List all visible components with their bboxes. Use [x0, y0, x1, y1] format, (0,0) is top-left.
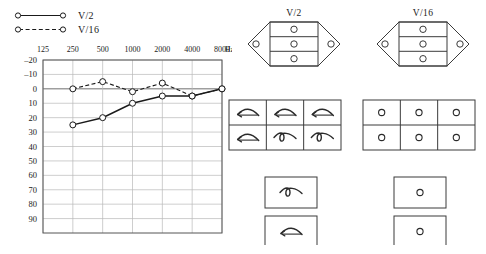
boxes-left-svg: [263, 175, 319, 245]
y-tick-label: 40: [29, 142, 38, 152]
data-point-marker: [159, 80, 165, 86]
left-box: [265, 177, 317, 208]
y-tick-label: –10: [23, 69, 37, 79]
hexagon-diagram-v16: V/16: [375, 8, 471, 66]
y-tick-label: –20: [23, 55, 37, 65]
circle-icon: [416, 134, 422, 140]
circle-grid-right: [360, 98, 478, 152]
curved-arrow-left-icon: [281, 228, 302, 236]
chart-legend: V/2 V/16: [14, 9, 99, 37]
legend-dashed-line-icon: [14, 24, 72, 35]
data-point-marker: [100, 115, 106, 121]
audiogram-chart: 1252505001000200040008000Hz–20–100102030…: [0, 38, 232, 248]
circle-icon: [417, 228, 423, 234]
y-tick-label: 20: [29, 113, 38, 123]
screenshot-root: V/2 V/16 1252505001000200040008000Hz–20–…: [0, 0, 486, 254]
boxes-right: [392, 175, 448, 245]
audiogram-svg: 1252505001000200040008000Hz–20–100102030…: [0, 38, 232, 250]
loop-squiggle-icon: [311, 133, 333, 141]
legend-item-v16: V/16: [14, 23, 99, 35]
y-tick-label: 90: [29, 214, 38, 224]
data-point-marker: [159, 93, 165, 99]
hexagon-title-v16: V/16: [375, 8, 471, 18]
loop-squiggle-icon: [280, 188, 302, 196]
circle-icon: [453, 109, 459, 115]
x-tick-label: 2000: [154, 45, 170, 54]
hexagon-diagram-v2: V/2: [246, 8, 342, 66]
legend-solid-line-icon: [14, 10, 72, 21]
x-tick-label: 125: [37, 45, 49, 54]
x-tick-label: 500: [97, 45, 109, 54]
circle-icon: [416, 109, 422, 115]
curved-arrow-left-icon: [238, 134, 259, 142]
y-tick-label: 0: [33, 84, 37, 94]
data-point-marker: [130, 100, 136, 106]
y-tick-label: 80: [29, 199, 38, 209]
curved-arrow-left-icon: [238, 109, 259, 117]
hexagon-shape-v16: [375, 20, 471, 68]
data-point-marker: [70, 86, 76, 92]
data-point-marker: [100, 79, 106, 85]
circle-icon: [453, 134, 459, 140]
legend-item-v2: V/2: [14, 9, 99, 21]
loop-squiggle-icon: [274, 133, 296, 141]
hexagon-title-v2: V/2: [246, 8, 342, 18]
x-axis-unit-label: Hz: [225, 45, 232, 54]
circle-icon: [417, 189, 423, 195]
hexagon-shape-v2: [246, 20, 342, 68]
y-tick-label: 30: [29, 127, 38, 137]
y-tick-label: 60: [29, 170, 38, 180]
left-box: [265, 216, 317, 245]
circle-icon: [379, 109, 385, 115]
arrow-grid-left-svg: [226, 98, 344, 152]
data-point-marker: [130, 89, 136, 95]
circle-grid-right-svg: [360, 98, 478, 152]
y-tick-label: 50: [29, 156, 38, 166]
data-point-marker: [189, 93, 195, 99]
boxes-right-svg: [392, 175, 448, 245]
series-line-v-2: [73, 89, 222, 125]
arrow-grid-left: [226, 98, 344, 152]
y-tick-label: 70: [29, 185, 38, 195]
legend-label-v16: V/16: [78, 24, 99, 35]
data-point-marker: [219, 86, 225, 92]
curved-arrow-left-icon: [312, 109, 333, 117]
circle-icon: [379, 134, 385, 140]
y-tick-label: 10: [29, 98, 38, 108]
x-tick-label: 4000: [184, 45, 200, 54]
x-tick-label: 1000: [125, 45, 141, 54]
diagram-panel: V/2 V/16: [232, 0, 486, 254]
data-point-marker: [70, 122, 76, 128]
legend-label-v2: V/2: [78, 10, 94, 21]
x-tick-label: 250: [67, 45, 79, 54]
boxes-left: [263, 175, 319, 245]
curved-arrow-left-icon: [275, 109, 296, 117]
